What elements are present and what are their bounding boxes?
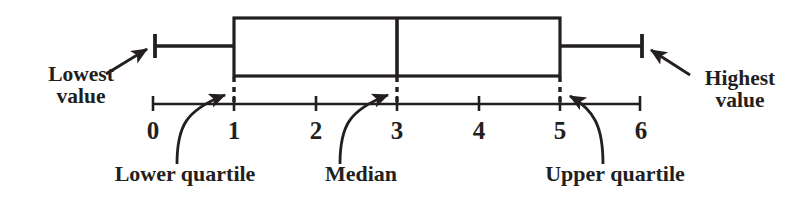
lower-quartile-leader (177, 95, 225, 164)
axis-label-1: 1 (228, 118, 241, 144)
lowest-value-line-1: Lowest (25, 64, 137, 86)
highest-value-callout: Highest value (684, 68, 796, 112)
axis-label-0: 0 (147, 118, 160, 144)
axis-label-6: 6 (635, 118, 648, 144)
upper-quartile-leader (570, 96, 603, 164)
median-leader (340, 95, 388, 164)
box-plot-figure: Lowest value Highest value 0 1 2 3 4 5 6… (0, 0, 799, 206)
highest-value-line-2: value (684, 90, 796, 112)
lowest-value-callout: Lowest value (25, 64, 137, 108)
lowest-value-line-2: value (25, 86, 137, 108)
highest-value-line-1: Highest (684, 68, 796, 90)
box-group (234, 18, 560, 76)
median-label: Median (320, 163, 402, 185)
number-line-axis (152, 96, 641, 111)
axis-label-4: 4 (473, 118, 486, 144)
axis-label-3: 3 (391, 118, 404, 144)
axis-label-2: 2 (310, 118, 323, 144)
upper-quartile-label: Upper quartile (534, 163, 696, 185)
lower-quartile-label: Lower quartile (105, 163, 265, 185)
axis-label-5: 5 (554, 118, 567, 144)
